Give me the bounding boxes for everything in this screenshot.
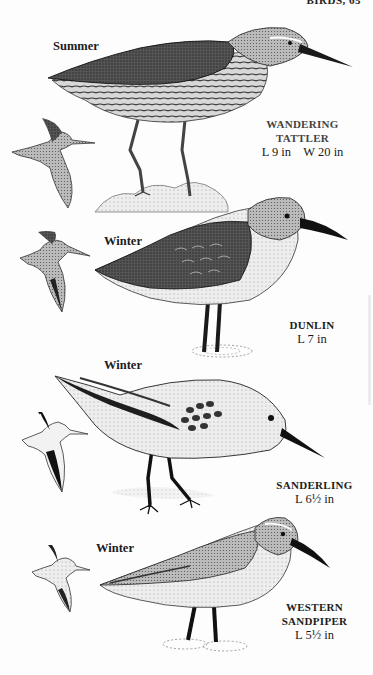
species-name-line: WESTERN bbox=[262, 600, 367, 614]
species-caption-western-sandpiper: WESTERN SANDPIPER L 5½ in bbox=[262, 600, 367, 642]
field-guide-page: BIRDS, 65 Summer bbox=[0, 0, 373, 675]
species-measurements: L 5½ in bbox=[262, 628, 367, 642]
species-name-line: SANDPIPER bbox=[262, 614, 367, 628]
western-sandpiper-illustration bbox=[0, 0, 373, 675]
